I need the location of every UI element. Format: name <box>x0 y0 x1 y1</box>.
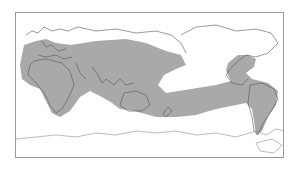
antarctica-coastline <box>16 129 284 153</box>
world-map: Broad band covering Europe, Africa, Midd… <box>15 12 284 158</box>
map-canvas <box>16 13 284 158</box>
shaded-region <box>20 39 278 135</box>
